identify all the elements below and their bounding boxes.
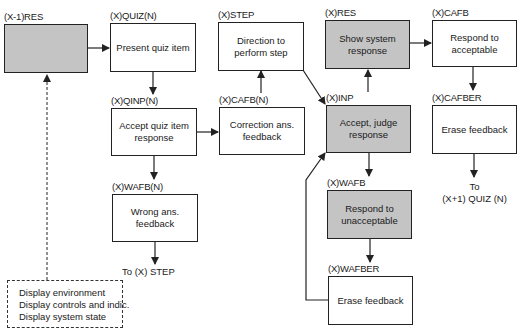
- node-label-cafber: (X)CAFBER: [432, 92, 481, 103]
- node-res: Show system response: [325, 20, 410, 69]
- node-wafber: Erase feedback: [328, 276, 413, 325]
- node-label-wafber: (X)WAFBER: [328, 263, 379, 274]
- arrow-wafber-to-inp: [306, 153, 328, 300]
- node-label-prev-res: (X-1)RES: [4, 11, 43, 22]
- node-label-res: (X)RES: [325, 7, 356, 18]
- node-wafb: Respond to unacceptable: [327, 190, 412, 239]
- note-to-next-quiz-line1: To: [432, 181, 517, 193]
- note-to-step: To (X) STEP: [122, 266, 175, 278]
- node-label-wafb-n: (X)WAFB(N): [112, 181, 163, 192]
- node-label-qinp: (X)QINP(N): [111, 95, 158, 106]
- node-qinp: Accept quiz item response: [111, 108, 197, 156]
- node-quiz: Present quiz item: [110, 23, 196, 72]
- environment-line: Display system state: [19, 311, 122, 323]
- environment-line: Display controls and indic.: [19, 299, 122, 311]
- node-prev-res: [4, 24, 88, 73]
- node-label-step: (X)STEP: [218, 9, 254, 20]
- node-step: Direction to perform step: [218, 22, 304, 71]
- node-label-cafb-n: (X)CAFB(N): [219, 94, 268, 105]
- node-cafb: Respond to acceptable: [432, 20, 517, 67]
- environment-box: Display environment Display controls and…: [7, 280, 123, 328]
- node-label-inp: (X)INP: [326, 92, 353, 103]
- node-inp: Accept, judge response: [326, 105, 411, 153]
- node-cafb-n: Correction ans. feedback: [219, 107, 305, 155]
- note-to-next-quiz-line2: (X+1) QUIZ (N): [432, 193, 517, 205]
- arrow-step-to-inp: [303, 70, 325, 104]
- node-label-cafb: (X)CAFB: [432, 7, 469, 18]
- note-to-next-quiz: To (X+1) QUIZ (N): [432, 181, 517, 205]
- node-wafb-n: Wrong ans. feedback: [112, 194, 198, 242]
- node-label-wafb: (X)WAFB: [327, 177, 365, 188]
- environment-line: Display environment: [19, 287, 122, 299]
- node-label-quiz: (X)QUIZ(N): [110, 10, 157, 21]
- node-cafber: Erase feedback: [432, 105, 517, 154]
